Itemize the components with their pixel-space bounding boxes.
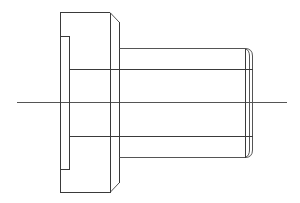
- drawing-canvas: [0, 0, 300, 203]
- bushing-drawing: [0, 0, 300, 203]
- flange-chamfer-bottom: [110, 183, 119, 193]
- flange-chamfer-top: [110, 13, 119, 23]
